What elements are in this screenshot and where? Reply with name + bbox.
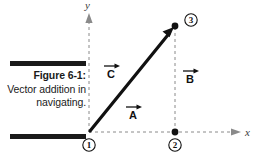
figure-caption-line-1: Vector <box>7 83 36 95</box>
node-2-dot <box>172 129 179 136</box>
vector-a-label-group: A <box>126 105 142 121</box>
x-axis <box>89 128 241 135</box>
vector-a-label: A <box>129 109 137 121</box>
node-2-number: 2 <box>173 140 178 150</box>
vector-b-label: B <box>186 73 194 85</box>
node-1-number: 1 <box>87 140 92 150</box>
node-3-dot <box>172 23 179 30</box>
node-1: 1 <box>83 139 95 151</box>
vector-a-label-arrowhead <box>137 105 143 110</box>
vector-c-label-group: C <box>104 64 120 80</box>
vector-b-label-group: B <box>183 69 199 85</box>
vector-c-label: C <box>107 68 115 80</box>
y-axis-label: y <box>84 0 90 11</box>
x-axis-label: x <box>244 126 250 138</box>
vector-c-label-arrowhead <box>115 64 121 69</box>
y-axis-arrowhead <box>85 13 92 23</box>
node-3-number: 3 <box>189 15 194 25</box>
x-axis-arrowhead <box>231 128 241 135</box>
figure-page: Figure 6-1: Vector addition in navigatin… <box>0 0 258 161</box>
vector-b-label-arrowhead <box>194 69 200 74</box>
node-3: 3 <box>172 14 198 30</box>
vector-addition-diagram: y x 1 2 <box>74 0 258 161</box>
y-axis <box>85 13 92 132</box>
vector-c-arrowhead <box>163 27 175 37</box>
